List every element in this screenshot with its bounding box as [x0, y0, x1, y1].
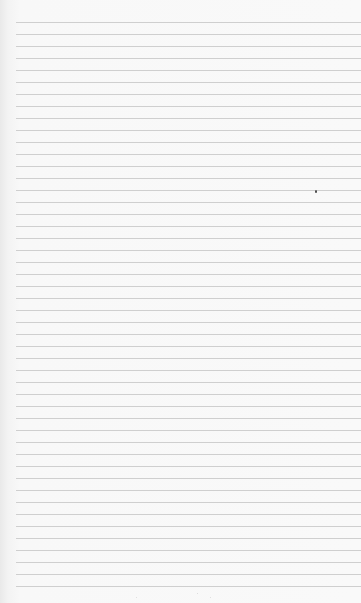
ruled-line: [16, 562, 361, 563]
ruled-line: [16, 514, 361, 515]
ruled-line: [16, 46, 361, 47]
speck: [197, 593, 198, 594]
ruled-line: [16, 58, 361, 59]
ruled-line: [16, 370, 361, 371]
ruled-line: [16, 406, 361, 407]
ruled-line: [16, 142, 361, 143]
ruled-lines: [16, 0, 361, 603]
ruled-line: [16, 94, 361, 95]
ruled-line: [16, 250, 361, 251]
ruled-line: [16, 382, 361, 383]
ruled-line: [16, 490, 361, 491]
ruled-line: [16, 22, 361, 23]
ink-dot: [315, 190, 317, 193]
ruled-line: [16, 586, 361, 587]
ruled-line: [16, 298, 361, 299]
ruled-line: [16, 262, 361, 263]
ruled-line: [16, 454, 361, 455]
ruled-line: [16, 154, 361, 155]
ruled-line: [16, 394, 361, 395]
ruled-line: [16, 418, 361, 419]
ruled-line: [16, 70, 361, 71]
ruled-line: [16, 322, 361, 323]
ruled-line: [16, 574, 361, 575]
ruled-line: [16, 550, 361, 551]
ruled-line: [16, 538, 361, 539]
ruled-line: [16, 358, 361, 359]
ruled-line: [16, 478, 361, 479]
ruled-line: [16, 346, 361, 347]
ruled-line: [16, 118, 361, 119]
ruled-line: [16, 226, 361, 227]
ruled-line: [16, 238, 361, 239]
ruled-line: [16, 286, 361, 287]
ruled-line: [16, 202, 361, 203]
ruled-line: [16, 442, 361, 443]
ruled-line: [16, 214, 361, 215]
ruled-line: [16, 106, 361, 107]
ruled-line: [16, 166, 361, 167]
ruled-line: [16, 310, 361, 311]
ruled-line: [16, 130, 361, 131]
speck: [136, 597, 137, 598]
ruled-line: [16, 82, 361, 83]
speck: [210, 597, 211, 598]
ruled-line: [16, 466, 361, 467]
ruled-line: [16, 34, 361, 35]
ruled-line: [16, 502, 361, 503]
ruled-line: [16, 178, 361, 179]
ruled-line: [16, 526, 361, 527]
ruled-line: [16, 334, 361, 335]
ruled-line: [16, 190, 361, 191]
ruled-line: [16, 430, 361, 431]
lined-paper: [0, 0, 361, 603]
ruled-line: [16, 274, 361, 275]
